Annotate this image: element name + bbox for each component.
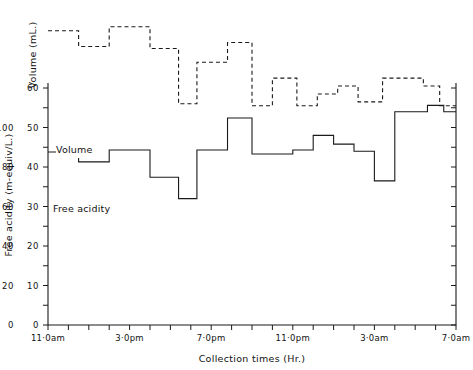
- x-tick-label: 7·0pm: [197, 333, 226, 343]
- series-volume-line: [48, 105, 456, 198]
- y-tick-label-acidity: 0: [8, 320, 14, 330]
- x-tick-label: 7·0am: [442, 333, 471, 343]
- y-tick-label-acidity: 100: [0, 123, 14, 133]
- y-tick-label-volume: 20: [27, 241, 39, 251]
- chart-svg: 010203040506002040608010011·0am3·0pm7·0p…: [0, 0, 473, 370]
- volume-series-label: Volume: [56, 144, 93, 155]
- y-tick-label-volume: 0: [33, 320, 39, 330]
- x-tick-label: 3·0am: [360, 333, 389, 343]
- y-axis-inner-title: Volume (mL.): [27, 22, 38, 89]
- y-tick-label-volume: 50: [27, 123, 39, 133]
- x-tick-label: 3·0pm: [115, 333, 144, 343]
- y-tick-label-volume: 40: [27, 162, 39, 172]
- data-series-group: [48, 27, 456, 199]
- chart-figure: 010203040506002040608010011·0am3·0pm7·0p…: [0, 0, 473, 370]
- x-axis-title: Collection times (Hr.): [199, 353, 306, 364]
- y-tick-label-volume: 30: [27, 202, 39, 212]
- series-free-acidity-line: [48, 27, 456, 106]
- y-tick-label-acidity: 20: [2, 281, 14, 291]
- x-tick-label: 11·0am: [31, 333, 65, 343]
- acidity-series-label: Free acidity: [53, 203, 110, 214]
- x-tick-label: 11·0pm: [276, 333, 310, 343]
- y-axis-outer-title: Free acidity (m-equiv/L.): [3, 133, 14, 256]
- y-tick-label-volume: 10: [27, 281, 39, 291]
